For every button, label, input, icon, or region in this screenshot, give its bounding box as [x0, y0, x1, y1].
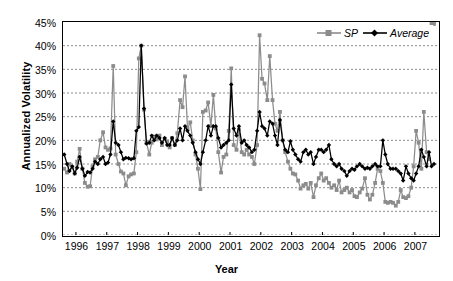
y-tick-label: 15% — [10, 159, 56, 171]
y-tick-label: 20% — [10, 135, 56, 147]
volatility-chart: Annualized Volatility 0%5%10%15%20%25%30… — [0, 0, 453, 281]
x-tick-label: 2007 — [404, 240, 427, 252]
sp-legend-swatch-icon — [317, 28, 341, 38]
x-axis-title: Year — [0, 263, 453, 275]
legend-item-sp: SP — [317, 27, 358, 39]
y-tick-label: 35% — [10, 64, 56, 76]
x-tick-label: 2003 — [281, 240, 304, 252]
x-tick-label: 2001 — [219, 240, 242, 252]
average-legend-swatch-icon — [363, 28, 387, 38]
chart-legend: SP Average — [313, 25, 433, 41]
x-tick-label: 1998 — [126, 240, 149, 252]
y-tick-label: 0% — [10, 230, 56, 242]
legend-item-average: Average — [363, 27, 429, 39]
y-axis-ticks: 0%5%10%15%20%25%30%35%40%45% — [6, 0, 56, 281]
x-tick-label: 1996 — [65, 240, 88, 252]
legend-label-average: Average — [390, 27, 429, 39]
x-tick-label: 2002 — [250, 240, 273, 252]
x-tick-label: 1997 — [96, 240, 119, 252]
x-tick-label: 2004 — [311, 240, 334, 252]
x-tick-label: 2000 — [188, 240, 211, 252]
y-tick-label: 5% — [10, 206, 56, 218]
y-tick-label: 10% — [10, 182, 56, 194]
x-tick-label: 2006 — [373, 240, 396, 252]
x-tick-label: 2005 — [342, 240, 365, 252]
y-tick-label: 30% — [10, 88, 56, 100]
x-tick-label: 1999 — [157, 240, 180, 252]
y-tick-label: 45% — [10, 17, 56, 29]
y-tick-label: 40% — [10, 40, 56, 52]
y-tick-label: 25% — [10, 111, 56, 123]
plot-area: SP Average — [62, 21, 440, 237]
series-canvas — [63, 22, 438, 235]
legend-label-sp: SP — [344, 27, 358, 39]
